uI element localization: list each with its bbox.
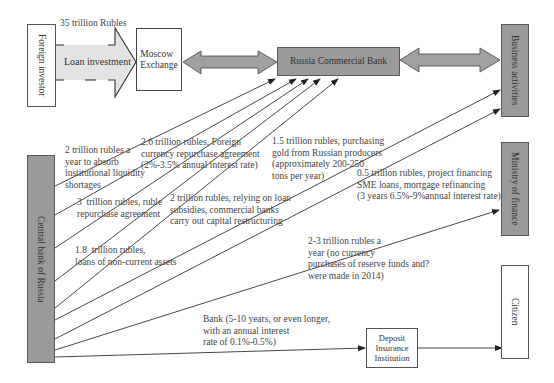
node-moscow-exchange-label: Moscow Exchange bbox=[140, 49, 177, 71]
node-business-activities-label: Business activities bbox=[510, 35, 520, 105]
flow-label-fx-repo: 2.6 trillion rubles, Foreign currency re… bbox=[141, 137, 260, 172]
flow-label-deposit-bank: Bank (5-10 years, or even longer, with a… bbox=[203, 314, 330, 349]
flow-label-reserve-funds: 2-3 trillion rubles a year (no currency … bbox=[308, 236, 429, 282]
loan-investment-label: Loan investment bbox=[64, 56, 131, 68]
exchange-bank-double-arrow bbox=[183, 51, 277, 74]
node-citizen: Citizen bbox=[501, 265, 529, 359]
node-foreign-investor: Foreign investor bbox=[27, 24, 56, 107]
node-ministry-of-finance-label: Ministry of finance bbox=[510, 152, 520, 225]
flow-label-ruble-repo: 3 trillion rubles, ruble repurchase agre… bbox=[77, 197, 162, 220]
flow-label-non-current-assets: 1.8 trillion rubles, loans of non-curren… bbox=[75, 245, 177, 268]
node-russia-commercial-bank: Russia Commercial Bank bbox=[277, 47, 400, 76]
loan-amount-label: 35 trillion Rubles bbox=[60, 18, 127, 30]
node-russia-commercial-bank-label: Russia Commercial Bank bbox=[290, 56, 387, 67]
node-business-activities: Business activities bbox=[501, 24, 529, 117]
flow-label-loan-subsidies: 2 trillion rubles, relying on loan subsi… bbox=[170, 193, 291, 228]
node-ministry-of-finance: Ministry of finance bbox=[501, 142, 529, 236]
flow-label-project-financing: 0.5 trillion rubles, project financing S… bbox=[357, 168, 501, 203]
node-moscow-exchange: Moscow Exchange bbox=[136, 28, 182, 91]
node-deposit-insurance: Deposit Insurance Institution bbox=[366, 328, 418, 368]
flow-label-liquidity: 2 trillion rubles a year to absorb insti… bbox=[65, 145, 145, 191]
bank-business-double-arrow bbox=[400, 48, 500, 72]
node-foreign-investor-label: Foreign investor bbox=[37, 34, 47, 97]
node-central-bank-label: Central bank of Russia bbox=[36, 216, 46, 303]
node-central-bank: Central bank of Russia bbox=[27, 155, 55, 363]
flow-line-deposit bbox=[55, 348, 365, 357]
node-deposit-insurance-label: Deposit Insurance Institution bbox=[375, 333, 410, 363]
node-citizen-label: Citizen bbox=[510, 298, 520, 325]
